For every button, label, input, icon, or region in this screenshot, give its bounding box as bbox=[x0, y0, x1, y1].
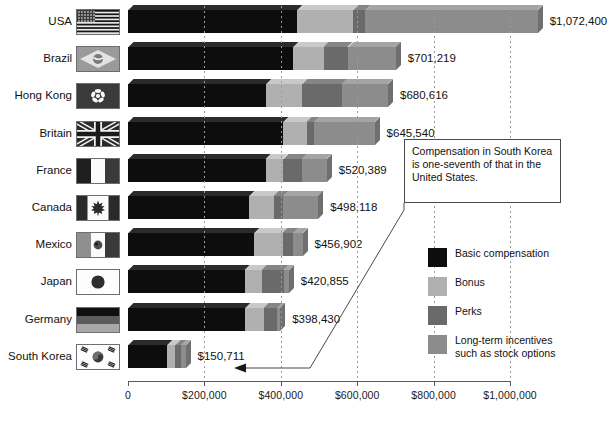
flag-hongkong-icon bbox=[76, 83, 120, 109]
flag-germany-icon bbox=[76, 307, 120, 333]
country-label-germany: Germany bbox=[0, 304, 72, 335]
country-label-canada: Canada bbox=[0, 192, 72, 223]
flag-mexico-icon bbox=[76, 232, 120, 258]
x-axis-tick-label: 0 bbox=[125, 389, 131, 401]
x-axis-tick-label: $400,000 bbox=[258, 389, 303, 401]
callout-text: Compensation in South Korea is one-seven… bbox=[412, 145, 552, 183]
flag-canada-icon bbox=[76, 195, 120, 221]
bar-end-cap bbox=[538, 5, 543, 33]
x-axis-tick bbox=[510, 381, 511, 386]
x-axis-tick bbox=[128, 381, 129, 386]
legend-item: Bonus bbox=[428, 276, 568, 298]
x-axis-tick-label: $600,000 bbox=[335, 389, 380, 401]
x-axis-tick bbox=[204, 381, 205, 386]
x-axis-tick-label: $1,000,000 bbox=[483, 389, 537, 401]
legend-item: Perks bbox=[428, 305, 568, 327]
gridline bbox=[204, 6, 205, 378]
legend-basic-label: Basic compensation bbox=[455, 247, 568, 260]
x-axis-tick-label: $800,000 bbox=[411, 389, 456, 401]
legend-basic-swatch bbox=[428, 248, 447, 267]
country-label-japan: Japan bbox=[0, 266, 72, 297]
x-axis-tick bbox=[357, 381, 358, 386]
gridline bbox=[357, 6, 358, 378]
country-label-britain: Britain bbox=[0, 118, 72, 149]
country-label-south-korea: South Korea bbox=[0, 341, 72, 372]
legend-item: Long-term incentives such as stock optio… bbox=[428, 334, 568, 359]
bar-value-label: $1,072,400 bbox=[550, 6, 607, 37]
country-label-brazil: Brazil bbox=[0, 43, 72, 74]
flag-france-icon bbox=[76, 158, 120, 184]
x-axis-tick-label: $200,000 bbox=[182, 389, 227, 401]
legend-item: Basic compensation bbox=[428, 247, 568, 269]
flag-usa-icon bbox=[76, 9, 120, 35]
legend-lti-label: Long-term incentives such as stock optio… bbox=[455, 334, 568, 359]
country-label-hong-kong: Hong Kong bbox=[0, 80, 72, 111]
flag-britain-icon bbox=[76, 121, 120, 147]
flag-brazil-icon bbox=[76, 46, 120, 72]
legend-perks-swatch bbox=[428, 306, 447, 325]
x-axis-tick bbox=[434, 381, 435, 386]
x-axis-line bbox=[128, 381, 511, 382]
country-label-france: France bbox=[0, 155, 72, 186]
flag-southkorea-icon bbox=[76, 344, 120, 370]
legend-bonus-swatch bbox=[428, 277, 447, 296]
legend-lti-swatch bbox=[428, 335, 447, 354]
chart-legend: Basic compensationBonusPerksLong-term in… bbox=[428, 247, 568, 366]
country-label-usa: USA bbox=[0, 6, 72, 37]
gridline bbox=[281, 6, 282, 378]
legend-bonus-label: Bonus bbox=[455, 276, 568, 289]
flag-japan-icon bbox=[76, 269, 120, 295]
country-label-mexico: Mexico bbox=[0, 229, 72, 260]
legend-perks-label: Perks bbox=[455, 305, 568, 318]
callout-box: Compensation in South Korea is one-seven… bbox=[404, 139, 561, 203]
x-axis-tick bbox=[281, 381, 282, 386]
